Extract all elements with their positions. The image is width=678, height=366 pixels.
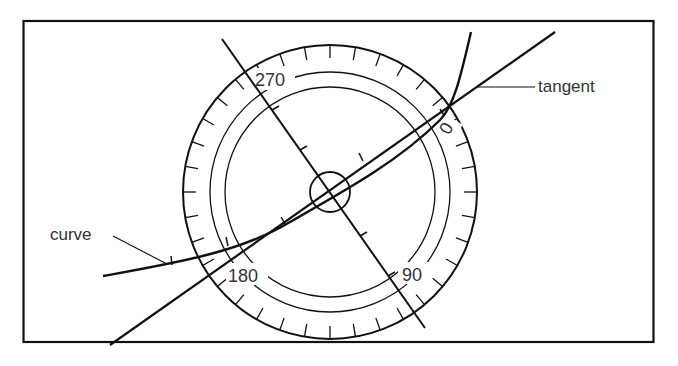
dial-label-90: 90 xyxy=(402,265,422,285)
protractor-diagram: 270 180 90 0 curve tangent xyxy=(0,0,678,366)
dial-label-180: 180 xyxy=(228,266,258,286)
curve-ticks xyxy=(171,109,444,265)
curve-label: curve xyxy=(50,225,92,244)
reference-line-ticks xyxy=(272,106,395,276)
tangent-line xyxy=(110,32,555,345)
tangent-label: tangent xyxy=(538,77,595,96)
diagram-frame xyxy=(24,21,654,342)
curve-leader xyxy=(113,236,167,264)
dial-label-270: 270 xyxy=(255,70,285,90)
